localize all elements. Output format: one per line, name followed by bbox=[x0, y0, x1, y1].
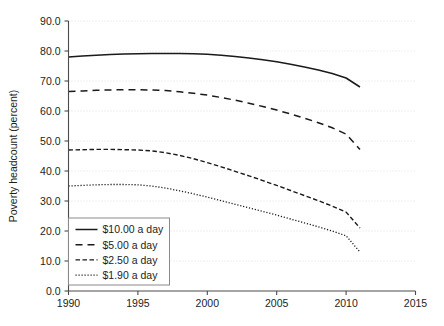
legend-label-3: $1.90 a day bbox=[103, 269, 159, 281]
x-tick-label-1995: 1995 bbox=[126, 297, 150, 309]
y-tick-label-70: 70.0 bbox=[40, 75, 61, 87]
y-tick-label-90: 90.0 bbox=[40, 15, 61, 27]
legend-label-0: $10.00 a day bbox=[103, 223, 164, 235]
x-tick-label-2000: 2000 bbox=[196, 297, 220, 309]
y-tick-label-80: 80.0 bbox=[40, 45, 61, 57]
series-line-1 bbox=[69, 90, 360, 150]
chart-legend: $10.00 a day$5.00 a day$2.50 a day$1.90 … bbox=[69, 218, 170, 285]
legend-label-1: $5.00 a day bbox=[103, 239, 159, 251]
series-line-0 bbox=[69, 53, 360, 87]
x-tick-label-2015: 2015 bbox=[404, 297, 428, 309]
x-tick-label-2005: 2005 bbox=[265, 297, 289, 309]
y-tick-label-60: 60.0 bbox=[40, 105, 61, 117]
x-tick-label-1990: 1990 bbox=[57, 297, 81, 309]
y-tick-label-40: 40.0 bbox=[40, 165, 61, 177]
y-tick-label-30: 30.0 bbox=[40, 195, 61, 207]
chart-canvas: 0.010.020.030.040.050.060.070.080.090.01… bbox=[0, 0, 444, 326]
y-tick-label-0: 0.0 bbox=[46, 285, 61, 297]
y-tick-label-20: 20.0 bbox=[40, 225, 61, 237]
legend-label-2: $2.50 a day bbox=[103, 254, 159, 266]
y-tick-label-50: 50.0 bbox=[40, 135, 61, 147]
y-tick-label-10: 10.0 bbox=[40, 255, 61, 267]
x-tick-label-2010: 2010 bbox=[334, 297, 358, 309]
poverty-headcount-line-chart: 0.010.020.030.040.050.060.070.080.090.01… bbox=[0, 0, 444, 326]
series-line-2 bbox=[69, 149, 360, 228]
y-axis-title: Poverty headcount (percent) bbox=[7, 90, 19, 223]
